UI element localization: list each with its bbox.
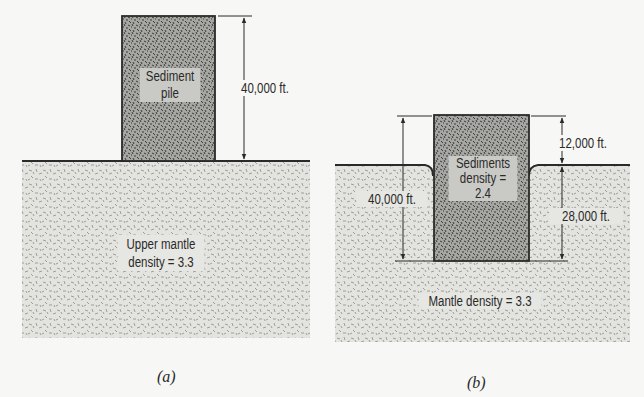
mantle-label-line1: Upper mantle [120,235,202,253]
mantle-density-label: Mantle density = 3.3 [419,293,542,309]
panel-a [22,16,310,338]
sediments-label-line2: density = [450,171,516,186]
sediments-label-line3: 2.4 [450,186,516,201]
below-surface-label: 28,000 ft. [549,208,623,224]
sediments-label: Sediments density = 2.4 [449,156,518,201]
height-label-a: 40,000 ft. [224,80,306,96]
above-surface-label: 12,000 ft. [549,135,618,151]
total-height-label: 40,000 ft. [357,191,428,207]
isostasy-diagram [0,0,644,397]
sediment-pile-label: Sediment pile [140,68,201,102]
caption-a: (a) [157,368,176,386]
sediment-label-line2: pile [141,85,198,102]
sediments-label-line1: Sediments [450,156,516,171]
sediment-label-line1: Sediment [141,68,198,85]
upper-mantle-label: Upper mantle density = 3.3 [118,235,205,271]
caption-b: (b) [467,374,486,392]
mantle-label-line2: density = 3.3 [120,253,202,271]
